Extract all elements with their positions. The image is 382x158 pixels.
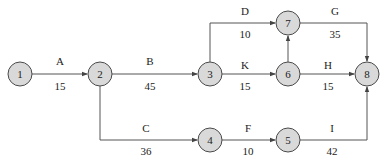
svg-text:3: 3 bbox=[207, 68, 213, 80]
node-1: 1 bbox=[8, 62, 32, 86]
activity-label-b: B bbox=[146, 55, 153, 67]
activity-label-i: I bbox=[330, 122, 334, 134]
node-2: 2 bbox=[88, 62, 112, 86]
duration-label-k: 15 bbox=[240, 80, 252, 92]
svg-text:5: 5 bbox=[285, 134, 291, 146]
duration-label-i: 42 bbox=[327, 145, 338, 157]
network-diagram: A 15 B 45 C 36 D 10 K 15 F 10 G 35 H 15 … bbox=[0, 0, 382, 158]
duration-label-a: 15 bbox=[55, 80, 67, 92]
duration-label-h: 15 bbox=[323, 80, 335, 92]
svg-text:8: 8 bbox=[364, 68, 370, 80]
activity-label-h: H bbox=[324, 59, 332, 71]
activity-label-g: G bbox=[331, 5, 339, 17]
svg-text:4: 4 bbox=[207, 134, 213, 146]
node-8: 8 bbox=[355, 62, 379, 86]
activity-label-c: C bbox=[142, 122, 149, 134]
node-5: 5 bbox=[276, 128, 300, 152]
duration-label-b: 45 bbox=[145, 80, 157, 92]
duration-label-f: 10 bbox=[243, 145, 255, 157]
node-6: 6 bbox=[276, 62, 300, 86]
duration-label-c: 36 bbox=[141, 145, 153, 157]
activity-label-d: D bbox=[241, 5, 249, 17]
svg-text:2: 2 bbox=[97, 68, 103, 80]
node-4: 4 bbox=[198, 128, 222, 152]
svg-text:7: 7 bbox=[285, 17, 291, 29]
activity-label-a: A bbox=[56, 55, 64, 67]
activity-label-f: F bbox=[245, 122, 251, 134]
activity-label-k: K bbox=[241, 59, 249, 71]
svg-text:6: 6 bbox=[285, 68, 291, 80]
svg-text:1: 1 bbox=[17, 68, 23, 80]
node-7: 7 bbox=[276, 11, 300, 35]
duration-label-g: 35 bbox=[330, 28, 342, 40]
duration-label-d: 10 bbox=[240, 28, 252, 40]
node-3: 3 bbox=[198, 62, 222, 86]
